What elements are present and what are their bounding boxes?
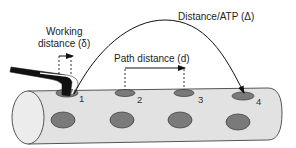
working-distance-label-line1: Working (46, 26, 83, 37)
lower-site-3 (168, 112, 192, 128)
binding-site-4 (232, 92, 254, 100)
distance-atp-label: Distance/ATP (Δ) (178, 11, 254, 22)
lower-site-2 (110, 112, 134, 128)
working-distance-label-line2: distance (δ) (38, 38, 90, 49)
path-distance-label: Path distance (d) (114, 53, 190, 64)
binding-site-2 (115, 90, 135, 97)
binding-site-3 (174, 90, 194, 97)
motor-step-diagram: 1 2 3 4 Working distance (δ) Path distan… (0, 0, 296, 148)
filament-end-cap (12, 91, 44, 144)
site-label-1: 1 (79, 93, 84, 104)
lower-site-4 (226, 114, 250, 130)
site-label-2: 2 (137, 94, 142, 105)
site-label-3: 3 (198, 94, 203, 105)
lower-site-1 (51, 112, 75, 128)
site-label-4: 4 (256, 96, 261, 107)
